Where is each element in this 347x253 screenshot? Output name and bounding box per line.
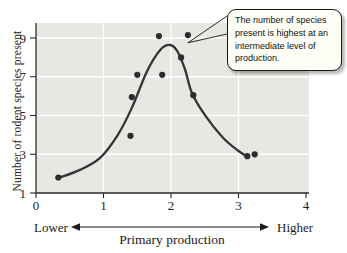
x-tick-label: 2 bbox=[168, 198, 175, 213]
species-production-figure: 0123413579 Number of rodent species pres… bbox=[0, 0, 347, 253]
data-point bbox=[55, 174, 61, 180]
data-point bbox=[127, 133, 133, 139]
data-point bbox=[252, 151, 258, 157]
annotation-line: present is highest at an bbox=[235, 27, 336, 40]
annotation-line: production. bbox=[235, 52, 336, 65]
data-point bbox=[185, 32, 191, 38]
arrow-head-left bbox=[71, 223, 80, 230]
annotation-callout: The number of species present is highest… bbox=[227, 9, 342, 71]
data-point bbox=[134, 72, 140, 78]
data-point bbox=[156, 33, 162, 39]
x-tick-label: 3 bbox=[235, 198, 242, 213]
data-point bbox=[159, 72, 165, 78]
data-point bbox=[178, 54, 184, 60]
y-axis-title: Number of rodent species present bbox=[11, 31, 23, 192]
x-tick-label: 1 bbox=[100, 198, 107, 213]
x-axis-lower-label: Lower bbox=[34, 220, 68, 236]
x-tick-label: 4 bbox=[303, 198, 310, 213]
data-point bbox=[244, 153, 250, 159]
x-axis-title: Primary production bbox=[105, 232, 239, 248]
annotation-line: The number of species bbox=[235, 14, 336, 27]
data-point bbox=[190, 92, 196, 98]
x-tick-label: 0 bbox=[33, 198, 40, 213]
data-point bbox=[129, 94, 135, 100]
annotation-line: intermediate level of bbox=[235, 40, 336, 53]
x-axis-higher-label: Higher bbox=[277, 220, 313, 236]
arrow-head-right bbox=[260, 223, 269, 230]
production-gradient-arrow bbox=[71, 223, 269, 230]
